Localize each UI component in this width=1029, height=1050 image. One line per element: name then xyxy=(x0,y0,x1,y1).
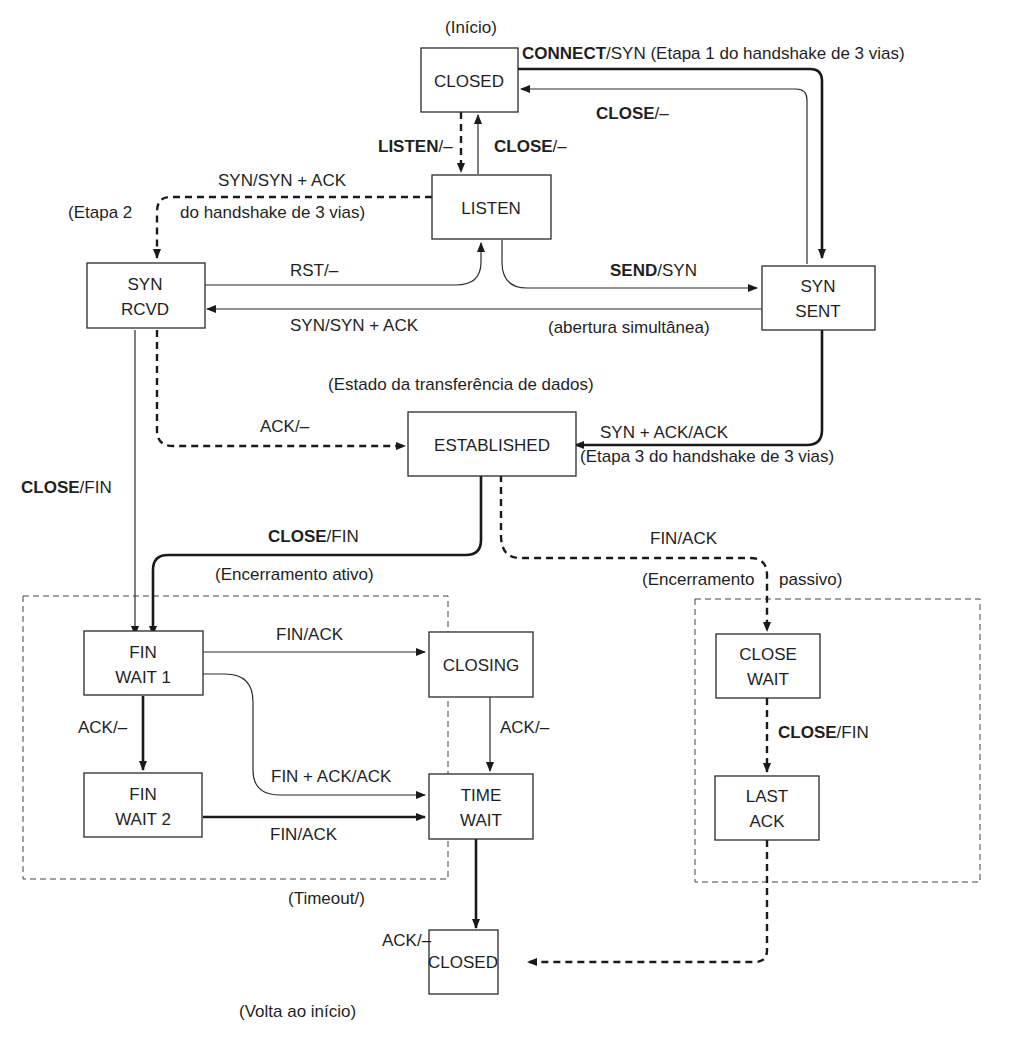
svg-text:LAST: LAST xyxy=(746,787,789,806)
svg-text:SYN: SYN xyxy=(801,277,836,296)
label-fin-ack-passive: FIN/ACK xyxy=(650,529,718,548)
label-fin-ack-closing: FIN/ACK xyxy=(276,625,344,644)
edge-close-fin-established xyxy=(153,475,481,635)
edge-fin-ack-passive xyxy=(501,475,767,631)
label-close-syn-sent: CLOSE/– xyxy=(596,104,669,123)
svg-text:ESTABLISHED: ESTABLISHED xyxy=(434,436,550,455)
label-simultaneous-open: (abertura simultânea) xyxy=(548,318,710,337)
state-syn-rcvd: SYN RCVD xyxy=(87,263,205,328)
svg-text:CLOSING: CLOSING xyxy=(443,656,520,675)
svg-text:WAIT: WAIT xyxy=(460,811,502,830)
label-listen: LISTEN/– xyxy=(378,137,453,156)
label-synack-ack: SYN + ACK/ACK xyxy=(600,423,729,442)
state-time-wait: TIME WAIT xyxy=(429,774,533,839)
state-close-wait: CLOSE WAIT xyxy=(716,634,820,698)
state-fin-wait-1: FIN WAIT 1 xyxy=(84,631,203,695)
label-close-fin-passive: CLOSE/FIN xyxy=(778,723,869,742)
caption-volta-inicio: (Volta ao início) xyxy=(239,1002,356,1021)
svg-text:WAIT 1: WAIT 1 xyxy=(115,668,171,687)
label-ack-closing: ACK/– xyxy=(500,718,550,737)
label-etapa2-a: (Etapa 2 xyxy=(68,203,132,222)
svg-text:SYN: SYN xyxy=(128,275,163,294)
label-syn-synack: SYN/SYN + ACK xyxy=(218,171,347,190)
label-ack-fw2: ACK/– xyxy=(78,718,128,737)
label-send: SEND/SYN xyxy=(610,261,697,280)
caption-passive-close-a: (Encerramento xyxy=(642,570,754,589)
svg-text:ACK: ACK xyxy=(750,812,786,831)
state-fin-wait-2: FIN WAIT 2 xyxy=(84,773,202,837)
svg-text:CLOSE: CLOSE xyxy=(739,645,797,664)
state-established: ESTABLISHED xyxy=(408,412,576,476)
state-syn-sent: SYN SENT xyxy=(762,266,875,330)
svg-text:FIN: FIN xyxy=(129,785,156,804)
label-etapa2-b: do handshake de 3 vias) xyxy=(180,203,365,222)
state-listen: LISTEN xyxy=(432,175,551,239)
edge-ack-last xyxy=(528,840,767,962)
label-ack-last: ACK/– xyxy=(382,931,432,950)
caption-inicio: (Início) xyxy=(445,18,497,37)
caption-passive-close-b: passivo) xyxy=(779,570,842,589)
svg-text:LISTEN: LISTEN xyxy=(461,199,521,218)
caption-established: (Estado da transferência de dados) xyxy=(328,375,594,394)
svg-text:TIME: TIME xyxy=(461,786,502,805)
tcp-state-diagram: CLOSED LISTEN SYN RCVD SYN SENT ESTABLIS… xyxy=(0,0,1029,1050)
svg-text:WAIT 2: WAIT 2 xyxy=(115,810,171,829)
label-close-listen: CLOSE/– xyxy=(494,137,567,156)
svg-text:FIN: FIN xyxy=(129,643,156,662)
label-finack-ack: FIN + ACK/ACK xyxy=(271,767,392,786)
label-rst: RST/– xyxy=(290,261,339,280)
edge-rst xyxy=(205,243,481,285)
label-syn-synack-simul: SYN/SYN + ACK xyxy=(290,316,419,335)
label-ack-established: ACK/– xyxy=(260,417,310,436)
svg-text:CLOSED: CLOSED xyxy=(428,953,498,972)
state-closed-bottom: CLOSED xyxy=(428,930,498,994)
label-etapa3: (Etapa 3 do handshake de 3 vias) xyxy=(580,447,834,466)
svg-text:WAIT: WAIT xyxy=(747,670,789,689)
label-timeout: (Timeout/) xyxy=(288,889,365,908)
label-close-fin-established: CLOSE/FIN xyxy=(268,527,359,546)
svg-text:CLOSED: CLOSED xyxy=(434,72,504,91)
label-fin-ack-fw2: FIN/ACK xyxy=(270,825,338,844)
label-close-fin-left: CLOSE/FIN xyxy=(21,478,112,497)
svg-text:SENT: SENT xyxy=(795,302,840,321)
edge-connect xyxy=(518,69,822,258)
state-closed-top: CLOSED xyxy=(421,48,518,112)
state-closing: CLOSING xyxy=(429,632,533,697)
state-last-ack: LAST ACK xyxy=(715,776,819,840)
label-connect: CONNECT/SYN (Etapa 1 do handshake de 3 v… xyxy=(522,44,905,63)
caption-active-close: (Encerramento ativo) xyxy=(215,565,374,584)
svg-text:RCVD: RCVD xyxy=(121,300,169,319)
